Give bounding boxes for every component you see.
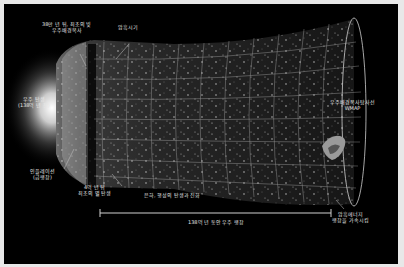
inflation-label: 인플레이션 (급팽창)	[30, 168, 55, 180]
dark-ages-label: 암흑시기	[118, 24, 138, 30]
cmb-label: 38만 년 뒤, 최초의 빛 우주배경복사	[42, 21, 91, 33]
wmap-label: 우주배경복사탐사선 WMAP	[330, 99, 375, 111]
expansion-funnel-graphic	[4, 4, 398, 264]
universe-timeline-diagram: 38만 년 뒤, 최초의 빛 우주배경복사 암흑시기 우주 탄생 (138억 년…	[4, 4, 398, 264]
expansion-label: 138억 년 동안 우주 팽창	[188, 219, 244, 225]
cmb-label-line2: 우주배경복사	[42, 27, 91, 33]
big-bang-label: 우주 탄생 (138억 년 전)	[18, 96, 50, 108]
first-stars-label: 4억 년 뒤 최초의 별 탄생	[78, 184, 111, 196]
dark-energy-label: 암흑에너지 팽창을 가속시킴	[332, 211, 369, 223]
galaxy-evolution-label: 은하, 행성의 탄생과 진화	[144, 192, 200, 198]
